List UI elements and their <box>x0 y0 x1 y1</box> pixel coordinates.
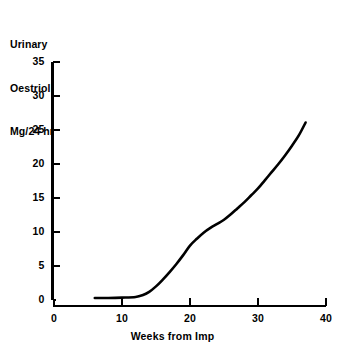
axes-group <box>53 62 327 306</box>
x-tick-label-0: 0 <box>41 312 67 324</box>
x-tick-label-20: 20 <box>177 312 203 324</box>
x-tick-label-30: 30 <box>245 312 271 324</box>
y-tick-label-10: 10 <box>19 225 45 237</box>
plot-area <box>0 0 345 354</box>
chart-container: Urinary Oestriol Mg/24 hr 05101520253035… <box>0 0 345 354</box>
y-tick-label-5: 5 <box>19 259 45 271</box>
data-series-group <box>95 123 306 298</box>
y-tick-label-0: 0 <box>19 293 45 305</box>
y-tick-label-30: 30 <box>19 89 45 101</box>
series-line-0 <box>95 123 306 298</box>
y-tick-label-15: 15 <box>19 191 45 203</box>
y-tick-label-20: 20 <box>19 157 45 169</box>
x-tick-label-10: 10 <box>109 312 135 324</box>
y-tick-label-25: 25 <box>19 123 45 135</box>
x-axis-title: Weeks from Imp <box>0 330 345 342</box>
x-tick-label-40: 40 <box>313 312 339 324</box>
y-tick-label-35: 35 <box>19 55 45 67</box>
